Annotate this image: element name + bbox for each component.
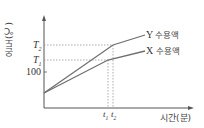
y-axis-arrow-icon — [42, 15, 46, 21]
tick-t1: t1 — [103, 110, 108, 121]
legend-y-letter: Y — [146, 29, 153, 40]
y-axis-label: 온도(℃) — [2, 22, 14, 57]
tick-t2: t2 — [111, 110, 116, 121]
x-axis-label: 시간(분) — [160, 114, 191, 123]
tick-t2-sub: 2 — [114, 115, 117, 121]
legend-x: X 수용액 — [146, 46, 180, 56]
tick-T2-sub: 2 — [39, 46, 42, 52]
tick-T2: T2 — [33, 40, 42, 52]
tick-t1-sub: 1 — [106, 115, 109, 121]
chart-canvas — [0, 0, 204, 128]
x-axis-arrow-icon — [188, 106, 194, 110]
series-y-line — [44, 35, 145, 93]
legend-y-suffix: 수용액 — [155, 30, 179, 40]
legend-y: Y 수용액 — [146, 30, 179, 40]
tick-100: 100 — [26, 67, 41, 77]
legend-x-letter: X — [146, 45, 153, 56]
legend-x-suffix: 수용액 — [156, 46, 180, 56]
